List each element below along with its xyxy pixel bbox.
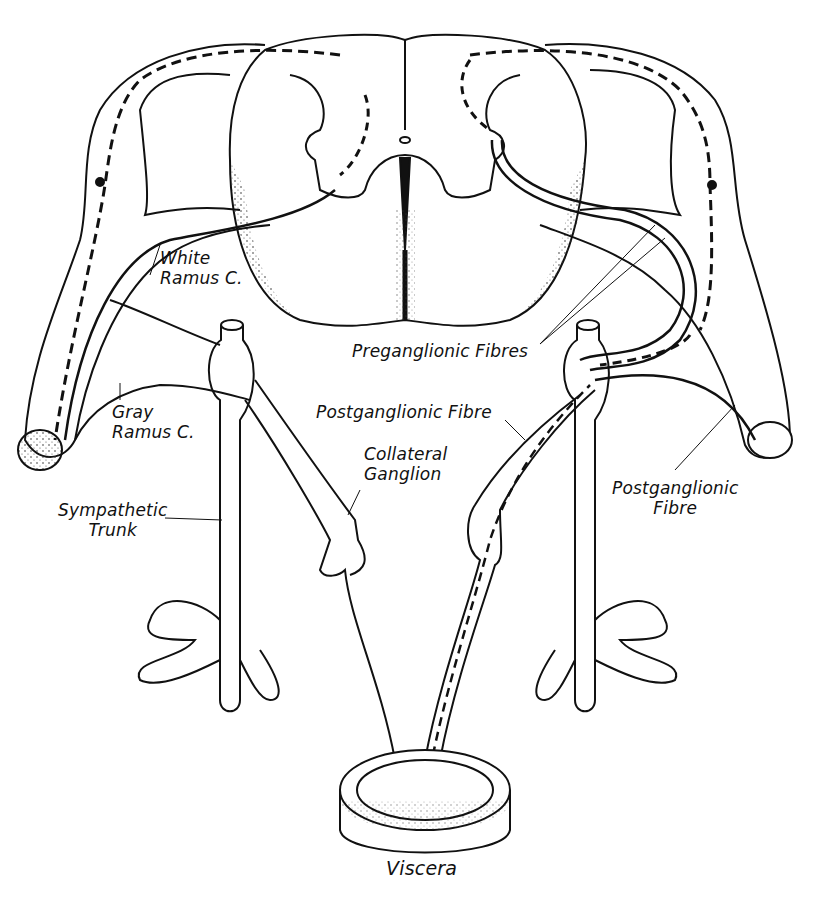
spinal-cord <box>230 35 586 326</box>
label-collateral-ganglion-line1: Collateral <box>364 444 447 464</box>
label-postganglionic-fibre-right: Postganglionic Fibre <box>612 478 738 518</box>
label-white-ramus: White Ramus C. <box>160 248 243 288</box>
label-sympathetic-trunk: Sympathetic Trunk <box>58 500 167 540</box>
label-postganglionic-right-line1: Postganglionic <box>612 478 738 498</box>
label-gray-ramus: Gray Ramus C. <box>112 402 195 442</box>
label-collateral-ganglion-line2: Ganglion <box>364 464 447 484</box>
label-postganglionic-right-line2: Fibre <box>612 498 738 518</box>
label-white-ramus-line1: White <box>160 248 243 268</box>
collateral-ganglia <box>245 380 595 770</box>
label-gray-ramus-line1: Gray <box>112 402 195 422</box>
label-collateral-ganglion: Collateral Ganglion <box>364 444 447 484</box>
viscera-tube <box>340 750 510 853</box>
label-sympathetic-trunk-line1: Sympathetic <box>58 500 167 520</box>
label-white-ramus-line2: Ramus C. <box>160 268 243 288</box>
label-postganglionic-fibre-center: Postganglionic Fibre <box>316 402 492 422</box>
label-sympathetic-trunk-line2: Trunk <box>58 520 167 540</box>
label-gray-ramus-line2: Ramus C. <box>112 422 195 442</box>
diagram-stage: White Ramus C. Gray Ramus C. Sympathetic… <box>0 0 816 900</box>
label-preganglionic-fibres: Preganglionic Fibres <box>352 341 528 361</box>
label-viscera: Viscera <box>386 858 457 878</box>
